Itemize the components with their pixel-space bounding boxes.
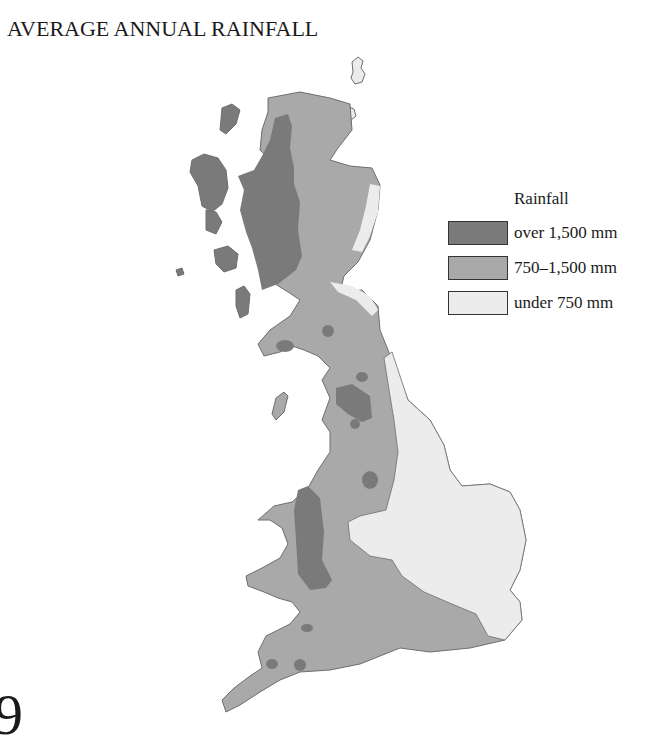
legend-swatch-low	[448, 291, 508, 315]
rainfall-map	[0, 0, 670, 750]
hebrides	[176, 104, 250, 318]
page-number-fragment: 9	[0, 686, 23, 744]
legend-label-high: over 1,500 mm	[514, 223, 617, 243]
legend-label-low: under 750 mm	[514, 293, 613, 313]
legend-title: Rainfall	[514, 189, 569, 209]
isle-of-man	[272, 392, 288, 420]
legend-label-medium: 750–1,500 mm	[514, 258, 617, 278]
legend-swatch-high	[448, 221, 508, 245]
legend-swatch-medium	[448, 256, 508, 280]
